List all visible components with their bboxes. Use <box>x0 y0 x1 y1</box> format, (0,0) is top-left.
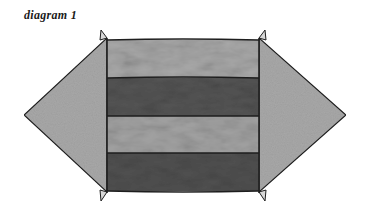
right-top-flap-icon <box>259 30 266 40</box>
left-bottom-flap-icon <box>100 190 107 201</box>
left-arrow <box>24 30 107 201</box>
left-top-flap-icon <box>100 30 107 40</box>
right-arrow <box>259 30 346 201</box>
stripe-4-dark <box>107 153 259 191</box>
stripe-2-dark <box>107 78 259 116</box>
stripe-3-light <box>107 116 259 153</box>
diagram-figure <box>0 0 369 221</box>
right-bottom-flap-icon <box>259 190 266 201</box>
striped-panel <box>107 38 259 193</box>
right-arrowhead-icon <box>259 38 346 192</box>
left-arrowhead-icon <box>24 38 107 192</box>
stripe-1-light <box>107 40 259 78</box>
